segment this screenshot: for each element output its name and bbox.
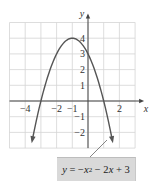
svg-text:1: 1 (80, 80, 85, 91)
svg-text:−2: −2 (74, 127, 85, 138)
svg-text:−2: −2 (51, 103, 62, 114)
svg-text:3: 3 (80, 48, 85, 59)
equation-label: y = −x2 − 2x + 3 (57, 157, 136, 181)
grid (10, 23, 136, 149)
svg-text:x: x (143, 103, 149, 114)
svg-text:y: y (79, 8, 85, 19)
svg-text:2: 2 (80, 64, 85, 75)
eq-x2: x (109, 164, 114, 175)
eq-term: − 2 (95, 164, 109, 175)
tick-labels: −4−2−124321−1−2xy (20, 8, 149, 138)
eq-x: x (84, 164, 89, 175)
svg-text:−1: −1 (74, 111, 85, 122)
eq-y: y (62, 164, 67, 175)
svg-text:−4: −4 (20, 103, 31, 114)
eq-equals: = (70, 164, 76, 175)
eq-const: + 3 (116, 164, 130, 175)
svg-text:2: 2 (117, 103, 122, 114)
